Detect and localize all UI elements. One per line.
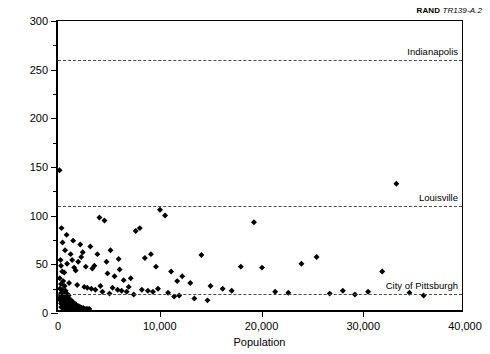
reference-line-city-of-pittsburgh (58, 294, 462, 295)
rand-credit: RAND TR139-A.2 (417, 6, 482, 15)
data-point (259, 265, 265, 271)
y-axis-tick (51, 167, 58, 168)
data-point (112, 273, 118, 279)
data-point (393, 181, 399, 187)
y-axis-tick-label: 250 (30, 64, 48, 76)
y-axis-tick-label: 100 (30, 210, 48, 222)
y-axis-minor-tick (53, 94, 58, 95)
data-point (220, 286, 226, 292)
data-point (74, 282, 80, 288)
data-point (157, 207, 163, 213)
data-point (191, 295, 197, 301)
x-axis-tick-label: 30,000 (346, 320, 380, 332)
data-point (168, 268, 174, 274)
data-point (104, 259, 110, 265)
data-point (69, 257, 75, 263)
data-point (83, 264, 89, 270)
data-point (68, 251, 74, 257)
data-point (94, 251, 100, 257)
scatter-plot-points (58, 21, 462, 310)
x-axis-tick-label: 0 (55, 320, 61, 332)
rand-mark-text: RAND (417, 6, 441, 15)
x-axis-tick (160, 310, 161, 317)
plot-area: 050100150200250300010,00020,00030,00040,… (56, 20, 463, 312)
data-point (75, 259, 81, 265)
y-axis-tick (51, 313, 58, 314)
data-point (116, 256, 122, 262)
y-axis-tick-label: 50 (36, 258, 48, 270)
data-point (139, 287, 145, 293)
reference-line-label: City of Pittsburgh (386, 280, 458, 291)
data-point (208, 283, 214, 289)
x-axis-tick (363, 310, 364, 317)
data-point (64, 232, 70, 238)
y-axis-tick (51, 118, 58, 119)
data-point (60, 240, 66, 246)
reference-line-louisville (58, 206, 462, 207)
data-point (110, 285, 116, 291)
data-point (58, 263, 64, 269)
data-point (131, 292, 137, 298)
data-point (142, 255, 148, 261)
reference-line-indianapolis (58, 60, 462, 61)
data-point (101, 217, 107, 223)
x-axis-tick-label: 40,000 (448, 320, 482, 332)
data-point (59, 225, 65, 231)
data-point (66, 280, 72, 286)
data-point (87, 243, 93, 249)
y-axis-minor-tick (53, 45, 58, 46)
data-point (105, 270, 111, 276)
y-axis-tick-label: 300 (30, 15, 48, 27)
x-axis-tick-label: 20,000 (245, 320, 279, 332)
data-point (148, 251, 154, 257)
rand-code-text: TR139-A.2 (442, 6, 482, 15)
x-axis-title: Population (56, 336, 463, 348)
data-point (155, 286, 161, 292)
reference-line-label: Indianapolis (407, 46, 458, 57)
x-axis-tick (262, 310, 263, 317)
data-point (121, 277, 127, 283)
data-point (238, 264, 244, 270)
y-axis-minor-tick (53, 289, 58, 290)
y-axis-minor-tick (53, 191, 58, 192)
data-point (62, 247, 68, 253)
data-point (70, 238, 76, 244)
y-axis-tick (51, 264, 58, 265)
data-point (198, 252, 204, 258)
data-point (298, 261, 304, 267)
y-axis-tick-label: 150 (30, 161, 48, 173)
data-point (97, 283, 103, 289)
data-point (77, 242, 83, 248)
data-point (162, 213, 168, 219)
x-axis-tick-label: 10,000 (143, 320, 177, 332)
data-point (108, 247, 114, 253)
data-point (205, 297, 211, 303)
y-axis-minor-tick (53, 240, 58, 241)
data-point (58, 257, 64, 263)
data-point (153, 264, 159, 270)
y-axis-tick-label: 0 (42, 307, 48, 319)
data-point (80, 249, 86, 255)
data-point (251, 219, 257, 225)
data-point (128, 275, 134, 281)
y-axis-minor-tick (53, 143, 58, 144)
y-axis-tick (51, 216, 58, 217)
data-point (179, 273, 185, 279)
y-axis-tick (51, 70, 58, 71)
data-point (64, 261, 70, 267)
y-axis-tick-label: 200 (30, 112, 48, 124)
data-point (58, 167, 62, 173)
data-point (314, 254, 320, 260)
data-point (117, 267, 123, 273)
data-point (88, 286, 94, 292)
y-axis-tick (51, 21, 58, 22)
data-point (174, 278, 180, 284)
data-point (78, 254, 84, 260)
data-point (96, 215, 102, 221)
reference-line-label: Louisville (419, 192, 458, 203)
data-point (379, 268, 385, 274)
figure-container: RAND TR139-A.2 Per-capita expenditures (… (0, 0, 490, 354)
data-point (352, 292, 358, 298)
data-point (187, 280, 193, 286)
